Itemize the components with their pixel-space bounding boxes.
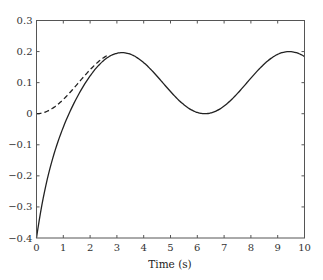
x-tick-label: 2	[87, 242, 93, 253]
y-tick-label: 0.1	[17, 77, 33, 88]
y-tick-label: −0.1	[8, 139, 32, 150]
x-tick-label: 5	[167, 242, 173, 253]
x-tick-label: 3	[114, 242, 120, 253]
x-axis-label: Time (s)	[148, 258, 191, 270]
x-tick-label: 0	[33, 242, 39, 253]
data-series	[37, 52, 305, 238]
plot-frame	[37, 21, 305, 239]
x-tick-label: 1	[60, 242, 66, 253]
x-tick-label: 7	[221, 242, 227, 253]
y-axis-ticks: −0.4−0.3−0.2−0.100.10.20.3	[8, 15, 304, 244]
solid-series-line	[37, 52, 305, 238]
x-axis-ticks: 012345678910	[33, 21, 311, 254]
y-tick-label: 0.3	[17, 15, 33, 26]
x-tick-label: 10	[298, 242, 311, 253]
y-tick-label: 0.2	[17, 46, 33, 57]
y-tick-label: 0	[26, 108, 32, 119]
x-tick-label: 6	[194, 242, 200, 253]
x-tick-label: 8	[248, 242, 254, 253]
y-tick-label: −0.4	[8, 233, 32, 244]
x-tick-label: 4	[141, 242, 147, 253]
y-tick-label: −0.3	[8, 201, 32, 212]
x-tick-label: 9	[275, 242, 281, 253]
line-chart: 012345678910 −0.4−0.3−0.2−0.100.10.20.3 …	[0, 0, 323, 280]
y-tick-label: −0.2	[8, 170, 32, 181]
